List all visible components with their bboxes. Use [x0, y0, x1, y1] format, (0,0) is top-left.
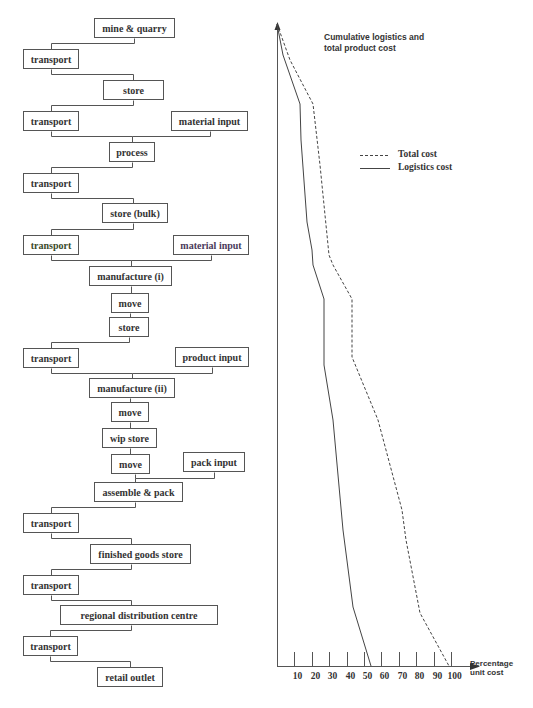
flow-node-store: store — [109, 317, 149, 337]
connector-line — [136, 473, 215, 483]
logistics-cost-line — [277, 24, 371, 666]
chart-title-line-2: total product cost — [324, 43, 424, 54]
x-tick-label: 80 — [415, 671, 425, 681]
flow-node-transport: transport — [23, 513, 79, 533]
flow-node-manufacture-i: manufacture (i) — [89, 266, 172, 286]
x-tick-label: 50 — [363, 671, 373, 681]
connector-line — [52, 565, 132, 576]
flow-node-material-input: material input — [171, 111, 248, 131]
flow-node-finished-goods-store: finished goods store — [90, 544, 191, 564]
flow-node-product-input: product input — [175, 347, 249, 367]
x-axis-title: Percentage unit cost — [470, 659, 513, 677]
chart-title: Cumulative logistics and total product c… — [324, 32, 424, 54]
chart-axes — [275, 22, 481, 670]
flow-node-assemble-pack: assemble & pack — [94, 482, 183, 502]
connector-line — [52, 338, 130, 349]
flow-node-transport: transport — [23, 636, 78, 656]
connector-line — [52, 503, 136, 514]
flow-node-store: store — [103, 80, 164, 100]
connector-line — [52, 596, 132, 606]
x-tick-label: 90 — [433, 671, 443, 681]
flow-node-pack-input: pack input — [183, 452, 245, 472]
connector-line — [52, 194, 134, 204]
x-tick-label: 70 — [398, 671, 408, 681]
flow-node-process: process — [109, 142, 155, 162]
connector-line — [51, 626, 132, 637]
x-tick-label: 30 — [328, 671, 338, 681]
flow-node-move: move — [111, 454, 150, 474]
connector-line — [52, 534, 132, 545]
connector-line — [52, 39, 135, 50]
x-tick-label: 40 — [346, 671, 356, 681]
x-tick-label: 10 — [293, 671, 303, 681]
connector-line — [52, 224, 134, 236]
connector-line — [52, 132, 211, 143]
legend-logistics-cost: Logistics cost — [398, 162, 452, 172]
flow-node-move: move — [111, 293, 149, 313]
flow-node-regional-distribution-centre: regional distribution centre — [60, 605, 218, 625]
connector-line — [52, 70, 134, 81]
flow-node-transport: transport — [23, 575, 79, 595]
connector-line — [51, 657, 131, 668]
flow-node-transport: transport — [23, 348, 79, 368]
total-cost-line — [277, 24, 449, 666]
flow-node-transport: transport — [23, 173, 79, 193]
x-tick-label: 20 — [311, 671, 321, 681]
x-tick-label: 60 — [380, 671, 390, 681]
flow-node-material-input: material input — [173, 235, 249, 255]
legend-total-cost: Total cost — [398, 149, 437, 159]
x-axis-title-line-1: Percentage — [470, 659, 513, 668]
connector-line — [52, 101, 134, 112]
flow-node-manufacture-ii: manufacture (ii) — [89, 378, 175, 398]
connector-line — [52, 163, 133, 174]
flow-node-move: move — [111, 402, 149, 422]
connector-line — [52, 368, 213, 379]
flow-node-store-bulk: store (bulk) — [102, 203, 168, 223]
flow-node-mine-quarry: mine & quarry — [94, 18, 175, 38]
x-axis-title-line-2: unit cost — [470, 668, 513, 677]
flow-node-transport: transport — [23, 235, 79, 255]
x-tick-label: 100 — [447, 671, 461, 681]
logistics-diagram: mine & quarrytransportstoretransportmate… — [0, 0, 533, 708]
flow-node-wip-store: wip store — [102, 428, 157, 448]
connector-layer — [0, 0, 533, 708]
flow-node-transport: transport — [23, 49, 79, 69]
chart-title-line-1: Cumulative logistics and — [324, 32, 424, 43]
connector-line — [52, 256, 212, 267]
flow-node-retail-outlet: retail outlet — [97, 667, 163, 687]
legend-swatches — [360, 156, 390, 169]
flow-node-transport: transport — [23, 111, 79, 131]
